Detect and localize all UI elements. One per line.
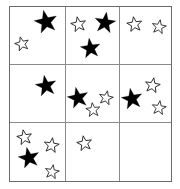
outline-star-icon	[84, 101, 102, 119]
outline-star-icon	[74, 133, 94, 153]
outline-star-icon	[150, 18, 169, 37]
outline-star-icon	[150, 99, 168, 117]
filled-star-icon	[119, 86, 144, 111]
star-grid-figure	[0, 0, 180, 189]
filled-star-icon	[93, 11, 118, 36]
outline-star-icon	[142, 75, 162, 95]
outline-star-icon	[68, 14, 88, 34]
filled-star-icon	[33, 73, 58, 98]
filled-star-icon	[78, 36, 102, 60]
outline-star-icon	[43, 163, 62, 182]
cell-r3-c3[interactable]	[119, 122, 172, 182]
outline-star-icon	[14, 127, 34, 147]
outline-star-icon	[41, 135, 60, 154]
filled-star-icon	[32, 8, 60, 36]
filled-star-icon	[16, 145, 42, 171]
outline-star-icon	[124, 14, 143, 33]
